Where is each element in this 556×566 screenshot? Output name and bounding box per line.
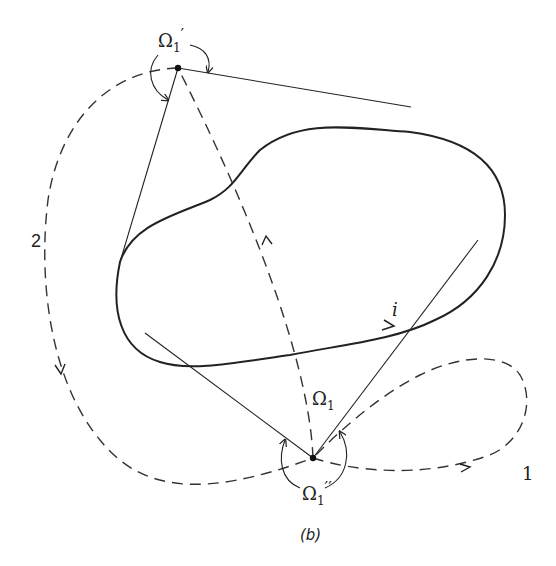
label-current-i: i [392,299,398,320]
current-direction-arrow [382,320,394,330]
figure-caption: (b) [300,526,321,544]
tangent-top-left [120,68,178,262]
dashed-path-1-arrow [460,464,470,472]
point-omega-top [175,65,181,71]
point-omega-bottom [310,455,316,461]
top-angle-arc-left [151,55,168,100]
tangent-top-right [178,68,411,107]
current-loop [116,127,505,366]
label-omega-top: Ω1′ [158,25,185,55]
label-omega-mid: Ω1 [312,388,335,413]
dashed-path-1 [313,359,527,471]
top-angle-arc-right [190,45,209,72]
dashed-path-omega-arrow [262,236,272,245]
label-path-2: 2 [31,231,41,251]
tangent-bottom-left [145,333,313,458]
tangent-bottom-right [313,240,478,458]
dashed-path-omega [178,68,313,458]
label-path-1: 1 [522,463,533,484]
dashed-path-2-arrow [55,364,65,374]
dashed-path-2 [45,68,313,484]
solid-angle-diagram: Ω1′ Ω1 Ω1′′ i 1 2 (b) [0,0,556,566]
label-omega-bottom: Ω1′′ [302,478,332,508]
